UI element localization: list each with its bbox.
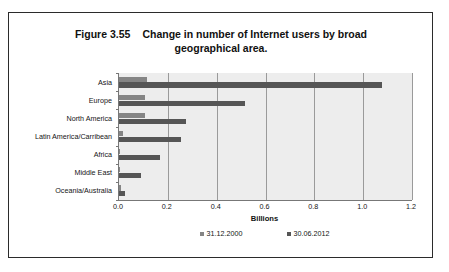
- category-label: Latin America/Carribean: [17, 127, 117, 145]
- legend-label: 31.12.2000: [207, 229, 243, 238]
- x-tick-label: 0.6: [260, 202, 270, 211]
- chart-plot-wrapper: AsiaEuropeNorth AmericaLatin America/Car…: [9, 13, 434, 259]
- y-tickmark: [116, 73, 119, 74]
- gridline: [363, 73, 364, 200]
- category-label: Oceania/Australia: [17, 182, 117, 200]
- x-tick-label: 0.8: [308, 202, 318, 211]
- bar-latin-america-carribean-30.06.2012: [119, 137, 181, 142]
- chart-legend: 31.12.200030.06.2012: [118, 229, 411, 238]
- bar-asia-31.12.2000: [119, 77, 147, 82]
- y-tickmark: [116, 127, 119, 128]
- x-tick-label: 0.0: [113, 202, 123, 211]
- bar-middle-east-30.06.2012: [119, 173, 141, 178]
- bar-north-america-30.06.2012: [119, 119, 186, 124]
- category-label: North America: [17, 109, 117, 127]
- bar-europe-30.06.2012: [119, 101, 245, 106]
- category-label: Asia: [17, 73, 117, 91]
- category-label: Middle East: [17, 164, 117, 182]
- y-tickmark: [116, 164, 119, 165]
- bar-middle-east-31.12.2000: [119, 167, 120, 172]
- gridline: [266, 73, 267, 200]
- gridline: [314, 73, 315, 200]
- y-tickmark: [116, 109, 119, 110]
- legend-label: 30.06.2012: [294, 229, 330, 238]
- figure-frame: Figure 3.55Change in number of Internet …: [8, 12, 433, 258]
- category-label: Africa: [17, 146, 117, 164]
- bar-africa-30.06.2012: [119, 155, 160, 160]
- y-tickmark: [116, 146, 119, 147]
- x-tick-label: 1.2: [406, 202, 416, 211]
- x-axis-title: Billions: [118, 214, 411, 223]
- bar-oceania-australia-31.12.2000: [119, 185, 121, 190]
- x-tick-label: 0.4: [211, 202, 221, 211]
- gridline: [412, 73, 413, 200]
- y-tickmark: [116, 200, 119, 201]
- legend-swatch-icon: [287, 232, 291, 236]
- legend-entry: 30.06.2012: [287, 229, 330, 238]
- bar-europe-31.12.2000: [119, 95, 145, 100]
- y-tickmark: [116, 182, 119, 183]
- x-tick-label: 1.0: [357, 202, 367, 211]
- bar-oceania-australia-30.06.2012: [119, 191, 125, 196]
- category-label: Europe: [17, 91, 117, 109]
- gridline: [217, 73, 218, 200]
- bar-north-america-31.12.2000: [119, 113, 145, 118]
- legend-swatch-icon: [200, 232, 204, 236]
- y-tickmark: [116, 91, 119, 92]
- category-axis: AsiaEuropeNorth AmericaLatin America/Car…: [17, 73, 117, 200]
- x-tick-label: 0.2: [162, 202, 172, 211]
- plot-area: [118, 73, 412, 201]
- x-axis-ticks: 0.00.20.40.60.81.01.2: [118, 202, 411, 214]
- bar-africa-31.12.2000: [119, 149, 120, 154]
- legend-entry: 31.12.2000: [200, 229, 243, 238]
- bar-latin-america-carribean-31.12.2000: [119, 131, 123, 136]
- bar-asia-30.06.2012: [119, 82, 382, 87]
